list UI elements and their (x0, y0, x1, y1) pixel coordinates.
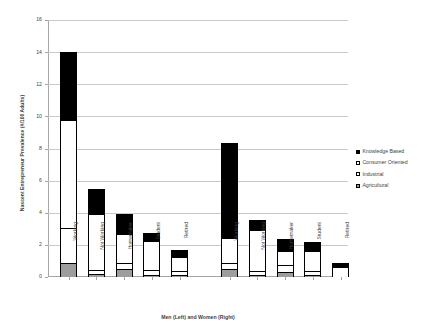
y-axis-tick-mark (45, 116, 48, 117)
x-axis-category-label: Retired (344, 222, 350, 282)
y-axis-tick-label: 2 (18, 242, 42, 247)
legend-swatch-icon (356, 161, 360, 165)
legend-label: Knowledge Based (362, 149, 404, 154)
y-axis-tick-label: 10 (18, 114, 42, 119)
legend-label: Consumer Oriented (362, 160, 407, 165)
y-axis-tick-label: 6 (18, 178, 42, 183)
bar-chart: Nascent Entrepreneur Prevalence (#/100 A… (0, 0, 438, 333)
legend-item-agricultural: Agricultural (356, 183, 408, 188)
legend-label: Agricultural (362, 183, 388, 188)
x-axis-tick-mark (152, 277, 153, 280)
gridline (48, 116, 348, 117)
legend-item-consumer-oriented: Consumer Oriented (356, 160, 408, 165)
x-axis-category-label: Homemaker (288, 222, 294, 282)
legend-item-industrial: Industrial (356, 172, 408, 177)
x-axis-category-label: Working (72, 222, 78, 282)
x-axis-tick-mark (69, 277, 70, 280)
legend-swatch-icon (356, 172, 360, 176)
gridline (48, 20, 348, 21)
y-axis-tick-mark (45, 20, 48, 21)
gridline (48, 84, 348, 85)
x-axis-tick-mark (124, 277, 125, 280)
x-axis-tick-mark (96, 277, 97, 280)
y-axis-tick-label: 8 (18, 146, 42, 151)
legend: Knowledge Based Consumer Oriented Indust… (356, 149, 408, 195)
y-axis-tick-label: 12 (18, 82, 42, 87)
gridline (48, 149, 348, 150)
y-axis-tick-mark (45, 213, 48, 214)
legend-swatch-icon (356, 150, 360, 154)
bar-segment-knowledge-based (60, 52, 77, 120)
x-axis-category-label: Working (233, 222, 239, 282)
x-axis-tick-mark (313, 277, 314, 280)
y-axis-tick-mark (45, 52, 48, 53)
x-axis-tick-mark (230, 277, 231, 280)
x-axis-category-label: Retired (183, 222, 189, 282)
x-axis-tick-mark (285, 277, 286, 280)
plot-area: 0246810121416 WorkingNot WorkingHomemake… (48, 20, 348, 277)
y-axis-tick-mark (45, 277, 48, 278)
x-axis-tick-mark (257, 277, 258, 280)
y-axis-tick-label: 16 (18, 17, 42, 22)
y-axis-tick-label: 0 (18, 274, 42, 279)
gridline (48, 181, 348, 182)
y-axis-tick-label: 4 (18, 210, 42, 215)
bar-segment-knowledge-based (88, 189, 105, 215)
x-axis-title: Men (Left) and Women (Right) (48, 314, 348, 320)
x-axis-category-label: Not Working (260, 222, 266, 282)
x-axis-category-label: Student (316, 222, 322, 282)
bar-segment-consumer-oriented (60, 120, 77, 228)
x-axis-category-label: Homemaker (127, 222, 133, 282)
gridline (48, 52, 348, 53)
legend-swatch-icon (356, 184, 360, 188)
y-axis-tick-mark (45, 245, 48, 246)
x-axis-tick-mark (180, 277, 181, 280)
legend-label: Industrial (362, 172, 383, 177)
x-axis-category-label: Not Working (99, 222, 105, 282)
y-axis-tick-mark (45, 149, 48, 150)
legend-item-knowledge-based: Knowledge Based (356, 149, 408, 154)
x-axis-tick-mark (341, 277, 342, 280)
x-axis-category-label: Student (155, 222, 161, 282)
y-axis-tick-mark (45, 181, 48, 182)
y-axis-tick-mark (45, 84, 48, 85)
y-axis-tick-label: 14 (18, 50, 42, 55)
